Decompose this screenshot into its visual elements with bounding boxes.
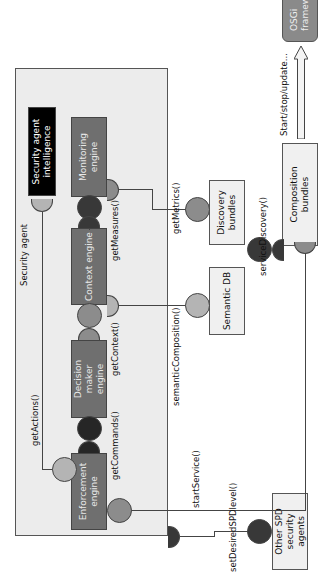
getmetrics-label: getMetrics() xyxy=(171,183,181,234)
other-agents-ball xyxy=(247,519,272,544)
security-agent-intelligence: Security agent intelligence xyxy=(28,107,56,196)
setdesiredspdlevel-wire xyxy=(180,536,214,537)
other-spd-security-agents: Other SPD security agents xyxy=(272,493,308,570)
enforcement-start-ball xyxy=(107,498,132,523)
architecture-diagram: Security agent Security agent intelligen… xyxy=(0,0,336,576)
getmeasures-label: getMeasures() xyxy=(110,200,120,261)
setdesiredspdlevel-label: setDesiredSPDlevel() xyxy=(228,483,238,572)
getcontext-label: getContext() xyxy=(110,322,120,376)
discovery-bundles: Discovery bundles xyxy=(209,180,245,245)
arrow-right-icon xyxy=(294,45,308,139)
semanticcomposition-label: semanticComposition() xyxy=(171,307,181,406)
enforcement-engine: Enforcement engine xyxy=(71,453,107,530)
getmetrics-wire xyxy=(118,189,152,190)
composition-bundles: Composition bundles xyxy=(282,143,318,246)
discovery-metrics-ball xyxy=(185,197,210,222)
monitoring-engine: Monitoring engine xyxy=(71,117,107,197)
context-engine: Context engine xyxy=(71,228,107,305)
startservice-wire xyxy=(305,253,306,511)
decision-maker-engine: Decision maker engine xyxy=(71,340,107,418)
lifecycle-arrow xyxy=(293,45,307,139)
semantic-db-ball xyxy=(185,293,210,318)
context-ball xyxy=(77,303,102,328)
decision-ball xyxy=(77,416,102,441)
security-agent-label: Security agent xyxy=(19,224,29,286)
getactions-label: getActions() xyxy=(30,394,40,446)
getactions-wire xyxy=(42,212,43,470)
lifecycle-label: Start/stop/update... xyxy=(279,53,289,136)
getcommands-label: getCommands() xyxy=(110,411,120,480)
enforcement-actions-ball xyxy=(52,457,77,482)
semantic-db: Semantic DB xyxy=(209,267,245,335)
startservice-label: startService() xyxy=(191,450,201,508)
osgi-framework: OSGi framework xyxy=(282,0,318,42)
security-agent-spd-socket xyxy=(168,526,180,548)
servicediscovery-label: serviceDiscovery() xyxy=(258,197,268,276)
composition-discovery-socket xyxy=(272,239,284,261)
